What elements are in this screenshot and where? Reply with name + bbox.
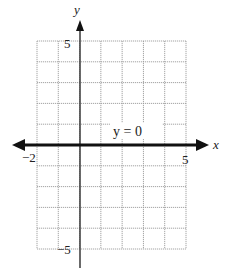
- x-max-tick-label: 5: [182, 152, 189, 167]
- x-axis-label: x: [212, 137, 219, 152]
- right-arrow-icon: [196, 139, 209, 151]
- y-min-tick-label: −5: [57, 242, 71, 257]
- y-max-tick-label: 5: [64, 36, 71, 51]
- x-min-tick-label: −2: [22, 150, 36, 165]
- equation-label: y = 0: [113, 124, 142, 139]
- coordinate-plane: y x 5 −5 −2 5 y = 0: [0, 0, 230, 274]
- y-axis-arrow-icon: [76, 20, 84, 31]
- y-axis-label: y: [72, 2, 80, 17]
